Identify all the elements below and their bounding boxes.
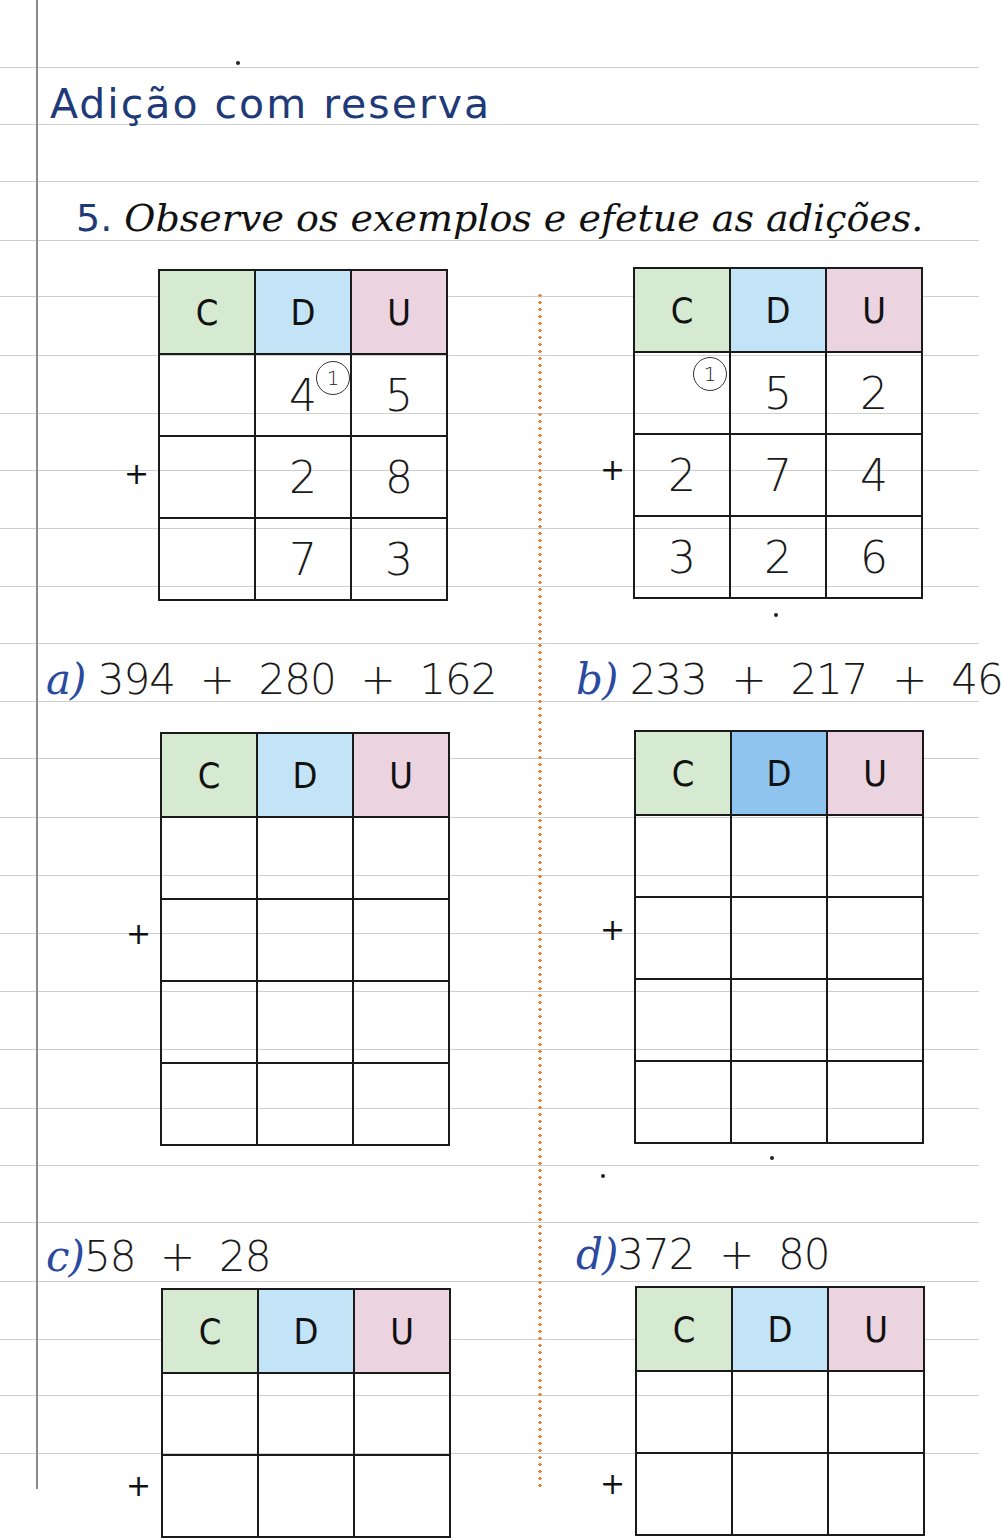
header-c: C (634, 268, 730, 352)
answer-cell[interactable] (828, 1371, 924, 1453)
header-c: C (159, 270, 255, 354)
answer-cell[interactable] (731, 815, 827, 897)
problem-label: b) (576, 655, 617, 704)
answer-cell[interactable] (731, 979, 827, 1061)
exercise-number: 5. (76, 196, 112, 240)
cell: 5 (351, 354, 447, 436)
cell: 2 (634, 434, 730, 516)
header-d: D (258, 1289, 354, 1373)
cell: 1 (634, 352, 730, 434)
problem-expression: 58 + 28 (84, 1232, 270, 1281)
cell: 2 (255, 436, 351, 518)
answer-cell[interactable] (353, 899, 449, 981)
cell (159, 436, 255, 518)
speck (774, 613, 778, 617)
answer-cell[interactable] (636, 1371, 732, 1453)
rule-line (0, 643, 979, 644)
cell (159, 354, 255, 436)
answer-cell[interactable] (731, 1061, 827, 1143)
problem-expression: 394 + 280 + 162 (98, 655, 497, 704)
header-d: D (257, 733, 353, 817)
answer-cell[interactable] (257, 981, 353, 1063)
plus-sign: + (600, 1466, 625, 1501)
plus-sign: + (124, 456, 149, 491)
speck (601, 1174, 605, 1178)
answer-cell[interactable] (732, 1371, 828, 1453)
answer-cell[interactable] (827, 815, 923, 897)
header-u: U (351, 270, 447, 354)
header-u: U (826, 268, 922, 352)
page-title: Adição com reserva (50, 80, 491, 128)
answer-cell[interactable] (161, 899, 257, 981)
problem-expression: 372 + 80 (617, 1230, 829, 1279)
answer-cell[interactable] (635, 897, 731, 979)
answer-cell[interactable] (353, 817, 449, 899)
rule-line (0, 67, 979, 68)
answer-cell[interactable] (258, 1455, 354, 1537)
rule-line (0, 1281, 979, 1282)
answer-cell[interactable] (353, 1063, 449, 1145)
answer-grid-c: C D U (161, 1288, 451, 1538)
problem-label: d) (576, 1230, 617, 1279)
problem-label: c) (46, 1232, 84, 1281)
answer-cell[interactable] (161, 817, 257, 899)
answer-cell[interactable] (258, 1373, 354, 1455)
plus-sign: + (600, 912, 625, 947)
rule-line (0, 181, 979, 182)
answer-grid-a: C D U (160, 732, 450, 1146)
answer-cell[interactable] (636, 1453, 732, 1535)
header-d: D (731, 731, 827, 815)
example-grid-1: C D U 41 5 2 8 7 3 (158, 269, 448, 601)
cell: 7 (730, 434, 826, 516)
speck (236, 61, 240, 65)
cell: 2 (826, 352, 922, 434)
header-d: D (730, 268, 826, 352)
answer-cell[interactable] (827, 897, 923, 979)
answer-cell[interactable] (635, 979, 731, 1061)
answer-cell[interactable] (162, 1455, 258, 1537)
cell: 6 (826, 516, 922, 598)
answer-cell[interactable] (635, 815, 731, 897)
instruction: 5. Observe os exemplos e efetue as adiçõ… (76, 196, 923, 240)
cell: 8 (351, 436, 447, 518)
header-c: C (636, 1287, 732, 1371)
cell: 3 (351, 518, 447, 600)
example-grid-2: C D U 1 5 2 2 7 4 3 2 6 (633, 267, 923, 599)
header-c: C (635, 731, 731, 815)
answer-cell[interactable] (827, 1061, 923, 1143)
header-u: U (828, 1287, 924, 1371)
instruction-text: Observe os exemplos e efetue as adições. (124, 196, 923, 240)
rule-line (0, 1165, 979, 1166)
margin-line (36, 0, 38, 1489)
problem-b: b) 233 + 217 + 46 (576, 655, 1003, 704)
answer-cell[interactable] (257, 899, 353, 981)
answer-cell[interactable] (353, 981, 449, 1063)
cell: 4 (826, 434, 922, 516)
answer-cell[interactable] (827, 979, 923, 1061)
plus-sign: + (126, 916, 151, 951)
answer-cell[interactable] (635, 1061, 731, 1143)
answer-cell[interactable] (354, 1373, 450, 1455)
speck (770, 1156, 774, 1160)
plus-sign: + (126, 1468, 151, 1503)
cell: 3 (634, 516, 730, 598)
dotted-divider (538, 292, 542, 1489)
answer-cell[interactable] (257, 1063, 353, 1145)
cell: 5 (730, 352, 826, 434)
cell: 7 (255, 518, 351, 600)
carry-badge: 1 (693, 357, 727, 391)
answer-cell[interactable] (828, 1453, 924, 1535)
answer-cell[interactable] (257, 817, 353, 899)
answer-cell[interactable] (161, 981, 257, 1063)
problem-expression: 233 + 217 + 46 (630, 655, 1003, 704)
answer-cell[interactable] (161, 1063, 257, 1145)
problem-d: d)372 + 80 (576, 1230, 829, 1279)
answer-cell[interactable] (732, 1453, 828, 1535)
header-c: C (161, 733, 257, 817)
answer-cell[interactable] (354, 1455, 450, 1537)
answer-cell[interactable] (162, 1373, 258, 1455)
header-u: U (353, 733, 449, 817)
problem-label: a) (46, 655, 85, 704)
answer-cell[interactable] (731, 897, 827, 979)
header-d: D (732, 1287, 828, 1371)
